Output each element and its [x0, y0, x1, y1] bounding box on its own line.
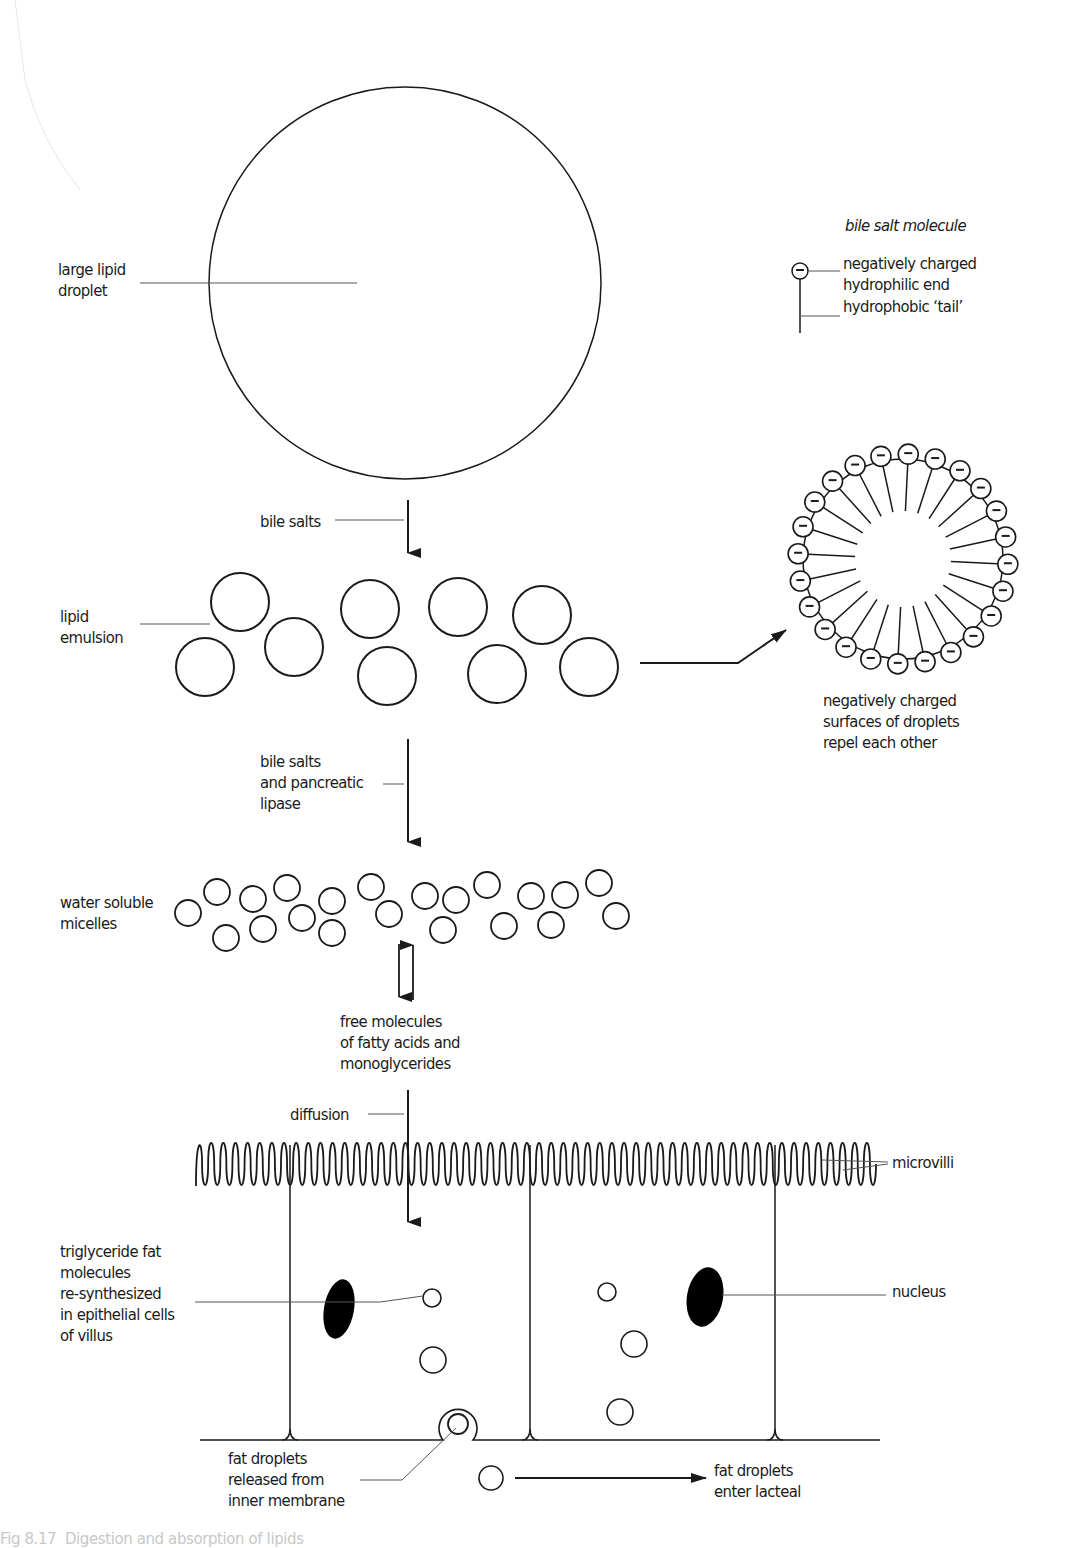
- label-fat-released: fat droplets released from inner membran…: [228, 1448, 345, 1511]
- charged-droplet-with-bile-salts: [788, 444, 1018, 674]
- water-soluble-micelles: [175, 870, 629, 951]
- cell-wall: [282, 1145, 298, 1440]
- label-bile-salts: bile salts: [260, 511, 321, 532]
- nucleus: [319, 1277, 359, 1341]
- page-edge-line: [15, 0, 80, 190]
- cell-wall: [767, 1145, 783, 1440]
- label-enter-lacteal: fat droplets enter lacteal: [714, 1460, 801, 1502]
- label-diffusion: diffusion: [290, 1104, 349, 1125]
- label-bile-salt-molecule: bile salt molecule: [845, 215, 966, 236]
- label-large-lipid-droplet: large lipid droplet: [58, 259, 126, 301]
- figure-caption: Fig 8.17 Digestion and absorption of lip…: [0, 1530, 304, 1548]
- label-microvilli: microvilli: [892, 1152, 954, 1173]
- basement-membrane: [200, 1409, 880, 1440]
- label-hydrophilic-end: negatively charged hydrophilic end: [843, 253, 976, 295]
- fat-released-leader: [360, 1428, 456, 1480]
- arrow-to-charged-droplet: [640, 630, 786, 663]
- microvilli-border: [196, 1143, 876, 1186]
- triglyceride-leader: [195, 1296, 423, 1302]
- microvilli-leader-2: [843, 1164, 888, 1170]
- bile-salt-molecule-icon: [792, 263, 840, 333]
- label-bile-salts-lipase: bile salts and pancreatic lipase: [260, 751, 363, 814]
- label-repel: negatively charged surfaces of droplets …: [823, 690, 959, 753]
- cell-wall: [522, 1145, 538, 1440]
- epithelial-cells: [196, 1143, 880, 1490]
- microvilli-leader: [822, 1160, 888, 1162]
- lipid-emulsion-droplets: [176, 573, 618, 705]
- nucleus: [682, 1264, 728, 1329]
- label-free-molecules: free molecules of fatty acids and monogl…: [340, 1011, 460, 1074]
- label-hydrophobic-tail: hydrophobic ‘tail’: [843, 296, 963, 317]
- label-micelles: water soluble micelles: [60, 892, 153, 934]
- label-nucleus: nucleus: [892, 1281, 946, 1302]
- label-lipid-emulsion: lipid emulsion: [60, 606, 123, 648]
- label-triglyceride: triglyceride fat molecules re-synthesize…: [60, 1241, 175, 1346]
